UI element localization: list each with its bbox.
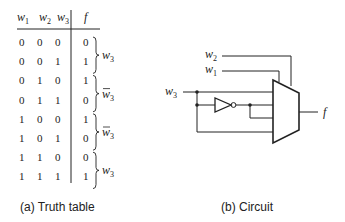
cell-w3: 1: [55, 94, 61, 106]
cell-w1: 1: [19, 170, 25, 182]
multiplexer-icon: [273, 80, 299, 143]
cell-w3: 0: [55, 151, 61, 163]
cell-w2: 1: [37, 94, 43, 106]
brace-icon: [93, 152, 99, 188]
label-w1: w1: [205, 62, 217, 78]
cell-w1: 0: [19, 94, 25, 106]
cell-w1: 0: [19, 55, 25, 67]
table-body: 00000011010101101001101011001111: [19, 36, 89, 182]
cell-w2: 0: [37, 132, 43, 144]
wire-w3-branch: [197, 92, 273, 132]
caption-truth-table: (a) Truth table: [20, 200, 95, 214]
group-label: w3: [102, 163, 114, 179]
wire-not-w3-branch: [250, 105, 273, 118]
header-f: f: [84, 10, 89, 24]
table-row: 0101: [19, 74, 89, 86]
cell-w2: 1: [37, 74, 43, 86]
cell-w2: 1: [37, 151, 43, 163]
inverter-icon: [215, 98, 231, 112]
cell-w3: 0: [55, 36, 61, 48]
truth-table: w1 w2 w3 f 00000011010101101001101011001…: [17, 10, 114, 189]
cell-f: 0: [83, 132, 89, 144]
figure: w1 w2 w3 f 00000011010101101001101011001…: [0, 0, 345, 222]
cell-w1: 0: [19, 36, 25, 48]
cell-w3: 0: [55, 113, 61, 125]
table-row: 1010: [19, 132, 89, 144]
header-w2: w2: [39, 10, 51, 26]
header-w3: w3: [57, 10, 69, 26]
cell-f: 1: [83, 74, 89, 86]
cell-w3: 1: [55, 170, 61, 182]
brace-icon: [93, 114, 99, 150]
caption-circuit: (b) Circuit: [221, 200, 273, 214]
cell-w3: 0: [55, 74, 61, 86]
cell-w1: 1: [19, 151, 25, 163]
cell-f: 1: [83, 170, 89, 182]
circuit-labels: w2 w1 w3 f: [165, 47, 328, 119]
cell-w1: 1: [19, 132, 25, 144]
circuit: [183, 56, 318, 143]
cell-f: 0: [83, 36, 89, 48]
cell-f: 1: [83, 55, 89, 67]
table-row: 0011: [19, 55, 89, 67]
cell-f: 1: [83, 113, 89, 125]
brace-icon: [93, 37, 99, 73]
label-w3: w3: [165, 84, 177, 100]
group-braces: [93, 37, 99, 189]
brace-icon: [93, 75, 99, 111]
label-w2: w2: [205, 47, 217, 63]
wire-w1: [222, 71, 279, 82]
table-row: 1001: [19, 113, 89, 125]
header-w1: w1: [17, 10, 29, 26]
group-label: w3: [102, 48, 114, 64]
cell-f: 0: [83, 94, 89, 106]
junction-dot: [248, 103, 252, 107]
cell-w3: 1: [55, 132, 61, 144]
table-header: w1 w2 w3 f: [17, 10, 89, 26]
table-row: 0110: [19, 94, 89, 106]
cell-w1: 1: [19, 113, 25, 125]
cell-w1: 0: [19, 74, 25, 86]
cell-w2: 1: [37, 170, 43, 182]
label-f: f: [323, 105, 328, 119]
cell-w2: 0: [37, 55, 43, 67]
junction-dot: [195, 103, 199, 107]
junction-dot: [195, 90, 199, 94]
table-row: 1100: [19, 151, 89, 163]
cell-w2: 0: [37, 113, 43, 125]
cell-w2: 0: [37, 36, 43, 48]
group-labels: w3w3w3w3: [102, 48, 114, 179]
table-row: 0000: [19, 36, 89, 48]
table-row: 1111: [19, 170, 89, 182]
cell-f: 0: [83, 151, 89, 163]
cell-w3: 1: [55, 55, 61, 67]
